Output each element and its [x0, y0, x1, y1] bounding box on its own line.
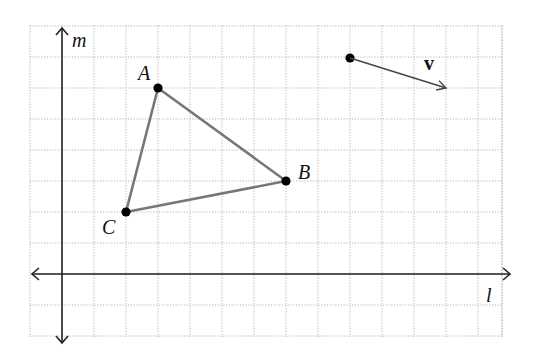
vertex-label-c: C: [102, 216, 116, 238]
vertex-label-b: B: [298, 161, 310, 183]
vector-v: v: [345, 52, 446, 90]
m-axis-label: m: [72, 29, 86, 51]
vertex-label-a: A: [136, 62, 151, 84]
coordinate-diagram: l m ABC v: [0, 0, 533, 355]
triangle-abc: [126, 88, 286, 212]
vertex-point-b: [281, 176, 290, 185]
axes: l m: [32, 28, 510, 343]
l-axis-label: l: [486, 284, 492, 306]
vertex-point-a: [153, 83, 162, 92]
triangle-edges: [126, 88, 286, 212]
vector-label: v: [424, 52, 434, 74]
vertex-point-c: [121, 207, 130, 216]
